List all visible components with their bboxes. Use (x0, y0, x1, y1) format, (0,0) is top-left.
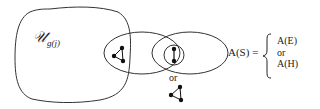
right-ellipse (152, 32, 228, 74)
formula-lhs: A(S) = (228, 47, 258, 58)
formula-case-2: or (277, 48, 285, 58)
triangle-graph-left (112, 46, 125, 63)
formula-case-1: A(E) (277, 36, 297, 46)
or-label: or (169, 73, 177, 83)
universe-symbol: 𝒰 (33, 29, 47, 45)
cases-brace (263, 34, 271, 78)
universe-subscript: g(j) (47, 38, 60, 48)
edge-graph (172, 47, 176, 63)
triangle-graph-alternative (169, 85, 183, 102)
universe-label: 𝒰g(j) (33, 30, 60, 48)
formula-case-3: A(H) (277, 59, 298, 69)
left-ellipse (104, 32, 180, 74)
